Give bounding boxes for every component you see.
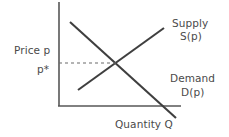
x-axis-label: Quantity Q [115,119,173,130]
supply-demand-figure: Price p p* Supply S(p) Demand D(p) Quant… [0,0,229,137]
demand-curve-label: Demand [170,73,215,84]
supply-curve [78,28,164,90]
supply-curve-label: Supply [172,18,208,29]
equilibrium-price-label: p* [37,64,49,75]
demand-function-label: D(p) [181,87,204,98]
demand-curve [70,22,176,118]
supply-function-label: S(p) [180,31,202,42]
y-axis-label: Price p [14,45,50,56]
